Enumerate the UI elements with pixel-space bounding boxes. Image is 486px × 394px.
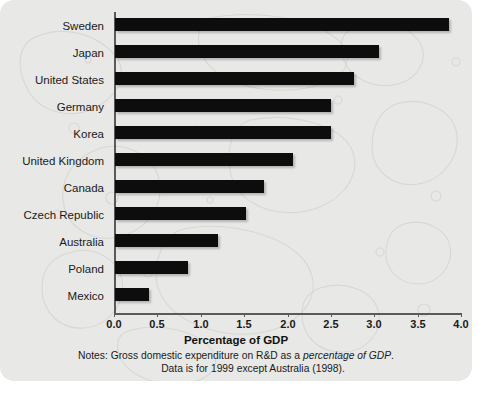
x-tick	[288, 313, 289, 317]
x-tick	[331, 313, 332, 317]
bar-germany	[115, 99, 331, 112]
bar-japan	[115, 45, 379, 58]
category-label: Canada	[0, 182, 104, 195]
x-tick	[374, 313, 375, 317]
bar-sweden	[115, 18, 449, 31]
x-tick-label: 3.0	[354, 318, 394, 330]
x-tick	[244, 313, 245, 317]
x-tick-label: 4.0	[441, 318, 481, 330]
x-tick	[114, 313, 115, 317]
x-tick	[157, 313, 158, 317]
category-label: Mexico	[0, 290, 104, 303]
bar-united-states	[115, 72, 354, 85]
x-tick-label: 2.0	[268, 318, 308, 330]
x-tick-label: 1.0	[181, 318, 221, 330]
bar-korea	[115, 126, 331, 139]
bar-czech-republic	[115, 207, 246, 220]
bar-poland	[115, 261, 188, 274]
bar-canada	[115, 180, 264, 193]
bar-united-kingdom	[115, 153, 293, 166]
x-tick	[418, 313, 419, 317]
bar-chart: Sweden Japan United States Germany Korea…	[0, 0, 486, 394]
bar-australia	[115, 234, 218, 247]
chart-notes: Notes: Gross domestic expenditure on R&D…	[0, 350, 472, 375]
bar-mexico	[115, 288, 149, 301]
notes-line-1-prefix: Notes: Gross domestic expenditure on R&D…	[78, 350, 303, 361]
category-label: Poland	[0, 263, 104, 276]
x-tick-label: 2.5	[311, 318, 351, 330]
notes-line-1-suffix: .	[391, 350, 394, 361]
notes-line-1-italic: percentage of GDP	[303, 350, 391, 361]
category-label: Czech Republic	[0, 209, 104, 222]
category-label: Sweden	[0, 20, 104, 33]
x-tick-label: 3.5	[398, 318, 438, 330]
category-label: United States	[0, 74, 104, 87]
notes-line-2: Data is for 1999 except Australia (1998)…	[0, 363, 472, 376]
x-tick-label: 0.5	[137, 318, 177, 330]
x-tick-label: 1.5	[224, 318, 264, 330]
x-tick	[461, 313, 462, 317]
x-axis-title: Percentage of GDP	[0, 334, 472, 346]
category-label: United Kingdom	[0, 155, 104, 168]
category-label: Germany	[0, 101, 104, 114]
category-label: Korea	[0, 128, 104, 141]
category-label: Australia	[0, 236, 104, 249]
category-label: Japan	[0, 47, 104, 60]
notes-line-1: Notes: Gross domestic expenditure on R&D…	[0, 350, 472, 363]
x-tick-label: 0.0	[94, 318, 134, 330]
x-tick	[201, 313, 202, 317]
